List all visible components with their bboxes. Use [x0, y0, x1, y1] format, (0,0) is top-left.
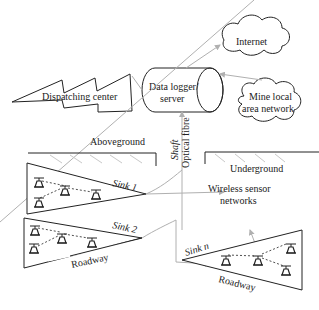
underground-surface: Underground: [205, 152, 319, 174]
dispatching-center-label: Dispatching center: [42, 91, 118, 102]
sink-2-region: Sink 2 Roadway: [24, 218, 142, 270]
optical-fibre-label: Optical fibre: [180, 117, 191, 168]
mine-lan-label-2: area network: [242, 103, 294, 114]
sink-1-region: Sink 1: [27, 163, 146, 214]
dispatching-center: Dispatching center: [12, 74, 132, 112]
sink-n-region: Sink n Roadway: [182, 230, 302, 293]
mine-lan-label-1: Mine local: [249, 91, 292, 102]
aboveground-surface: Aboveground: [28, 136, 156, 166]
aboveground-label: Aboveground: [90, 136, 145, 147]
wsn-label-2: networks: [220, 195, 257, 206]
server-label: server: [160, 93, 185, 104]
internet-cloud: Internet: [222, 15, 289, 55]
shaft-label: Shaft: [169, 139, 180, 160]
internet-label: Internet: [236, 36, 267, 47]
data-logger-server: Data logger/ server: [142, 68, 223, 112]
mine-lan-cloud: Mine local area network: [238, 78, 300, 121]
sink-2-label: Sink 2: [112, 219, 138, 235]
wsn-label-1: Wireless sensor: [208, 183, 271, 194]
mine-monitoring-diagram: Dispatching center Data logger/ server I…: [0, 0, 319, 310]
underground-label: Underground: [230, 163, 283, 174]
data-logger-label: Data logger/: [149, 81, 199, 92]
